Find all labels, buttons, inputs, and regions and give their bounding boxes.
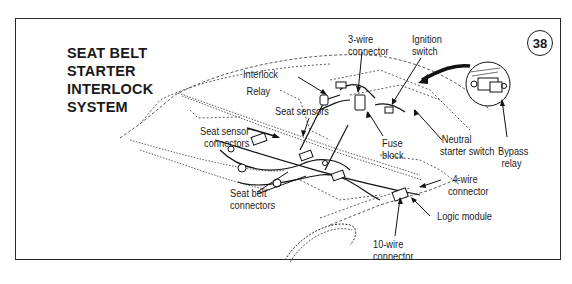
label-4-wire-connector: 4-wire connector [448,173,489,197]
label-logic-module: Logic module [437,210,492,222]
title-line: STARTER [67,62,153,80]
label-ignition-switch: Ignition switch [412,33,442,57]
figure-number-badge: 38 [527,30,553,56]
label-seat-belt-connectors: Seat belt connectors [230,187,275,211]
label-fuse-block: Fuse block [382,137,404,161]
label-seat-sensor-connectors: Seat sensor connectors [200,125,249,149]
label-3-wire-connector: 3-wire connector [348,33,389,57]
diagram-title: SEAT BELT STARTER INTERLOCK SYSTEM [67,44,153,116]
title-line: SYSTEM [67,98,153,116]
label-bypass-relay: Bypass relay [498,145,528,169]
label-seat-sensors: Seat sensors [275,105,329,117]
title-line: INTERLOCK [67,80,153,98]
label-interlock-relay: Interlock Relay [243,66,278,100]
label-10-wire-connector: 10-wire connector [373,238,414,262]
label-neutral-starter-switch: Neutral starter switch [440,133,494,157]
title-line: SEAT BELT [67,44,153,62]
